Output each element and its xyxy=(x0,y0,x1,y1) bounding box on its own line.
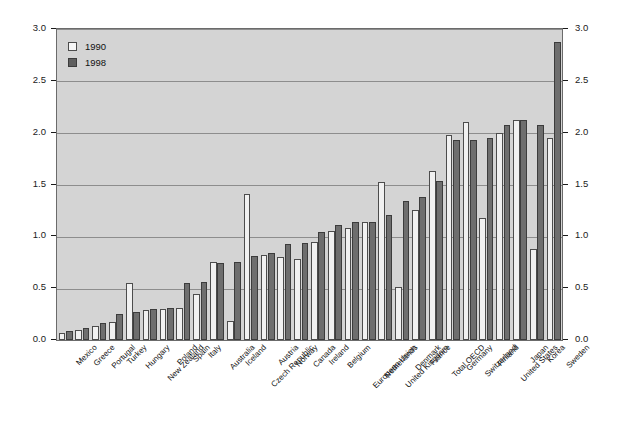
bar-1998 xyxy=(201,282,208,340)
chart-legend: 1990 1998 xyxy=(68,40,106,72)
bar-group xyxy=(495,29,512,340)
x-axis-labels: MexicoGreecePortugalTurkeyHungaryNew Zea… xyxy=(57,343,562,427)
y-tick-mark xyxy=(563,132,568,133)
bar-1998 xyxy=(285,244,292,340)
bar-1990 xyxy=(59,333,66,340)
bar-group xyxy=(141,29,158,340)
bar-group xyxy=(360,29,377,340)
bar-1990 xyxy=(143,310,150,340)
bar-group xyxy=(124,29,141,340)
bar-group xyxy=(343,29,360,340)
y-tick-label: 0.0 xyxy=(16,334,46,344)
y-tick-label: 2.5 xyxy=(16,75,46,85)
bar-1990 xyxy=(345,228,352,340)
bar-1998 xyxy=(217,263,224,340)
bar-1998 xyxy=(419,197,426,340)
legend-label-1998: 1998 xyxy=(85,58,106,67)
bar-1990 xyxy=(496,133,503,340)
bar-group xyxy=(57,29,74,340)
y-tick-mark xyxy=(563,184,568,185)
bar-1990 xyxy=(294,259,301,340)
y-tick-label: 1.0 xyxy=(16,230,46,240)
y-tick-mark xyxy=(563,28,568,29)
y-tick-mark xyxy=(51,339,56,340)
bar-group xyxy=(512,29,529,340)
y-tick-mark xyxy=(51,28,56,29)
bar-1990 xyxy=(513,120,520,340)
bar-1990 xyxy=(311,242,318,340)
bar-group xyxy=(411,29,428,340)
bar-1998 xyxy=(318,232,325,340)
bar-1990 xyxy=(109,322,116,340)
chart-container: 0.00.51.01.52.02.53.0 0.00.51.01.52.02.5… xyxy=(0,0,629,427)
bar-1990 xyxy=(479,218,486,340)
y-tick-label: 0.0 xyxy=(575,334,605,344)
y-tick-mark xyxy=(51,132,56,133)
bar-group xyxy=(326,29,343,340)
bar-group xyxy=(209,29,226,340)
y-tick-label: 1.5 xyxy=(16,179,46,189)
bar-group xyxy=(461,29,478,340)
bar-1990 xyxy=(328,231,335,340)
bar-group xyxy=(91,29,108,340)
bar-1998 xyxy=(234,262,241,340)
bar-1990 xyxy=(210,262,217,340)
y-tick-label: 2.0 xyxy=(575,127,605,137)
legend-swatch-1998 xyxy=(68,58,77,67)
bar-1998 xyxy=(133,312,140,340)
bar-1998 xyxy=(66,331,73,340)
bar-1990 xyxy=(126,283,133,340)
y-tick-label: 2.0 xyxy=(16,127,46,137)
x-axis-label: Sweden xyxy=(564,343,591,370)
bar-1990 xyxy=(75,330,82,340)
bar-1990 xyxy=(378,182,385,340)
bar-1990 xyxy=(530,249,537,340)
bar-group xyxy=(377,29,394,340)
bar-group xyxy=(108,29,125,340)
bar-group xyxy=(225,29,242,340)
bar-1998 xyxy=(184,283,191,340)
bar-1998 xyxy=(453,140,460,340)
y-tick-mark xyxy=(51,287,56,288)
bar-group xyxy=(192,29,209,340)
bar-group xyxy=(545,29,562,340)
y-tick-mark xyxy=(563,287,568,288)
bar-1990 xyxy=(244,194,251,340)
bar-1990 xyxy=(277,257,284,340)
bar-group xyxy=(444,29,461,340)
y-tick-mark xyxy=(563,339,568,340)
y-tick-mark xyxy=(51,235,56,236)
bar-group xyxy=(310,29,327,340)
bar-1998 xyxy=(554,42,561,340)
bar-1998 xyxy=(436,181,443,340)
legend-item-1998: 1998 xyxy=(68,56,106,69)
y-tick-label: 3.0 xyxy=(575,23,605,33)
bar-1990 xyxy=(261,255,268,340)
bar-1990 xyxy=(429,171,436,340)
y-tick-mark xyxy=(51,184,56,185)
bar-1998 xyxy=(150,309,157,340)
y-tick-label: 0.5 xyxy=(575,282,605,292)
y-tick-mark xyxy=(563,235,568,236)
bar-1998 xyxy=(487,138,494,340)
bar-1998 xyxy=(167,308,174,340)
bar-1998 xyxy=(386,215,393,340)
bar-1990 xyxy=(395,287,402,340)
bar-group xyxy=(427,29,444,340)
y-tick-label: 2.5 xyxy=(575,75,605,85)
bar-group xyxy=(242,29,259,340)
bar-1990 xyxy=(362,222,369,340)
bar-1990 xyxy=(463,122,470,340)
bar-group xyxy=(528,29,545,340)
legend-item-1990: 1990 xyxy=(68,40,106,53)
bar-1998 xyxy=(470,140,477,340)
y-tick-mark xyxy=(51,80,56,81)
y-tick-label: 1.5 xyxy=(575,179,605,189)
bar-1998 xyxy=(251,256,258,340)
bar-1998 xyxy=(302,243,309,340)
bar-group xyxy=(293,29,310,340)
y-tick-label: 0.5 xyxy=(16,282,46,292)
bar-1998 xyxy=(83,328,90,340)
bar-1990 xyxy=(547,138,554,340)
bar-1998 xyxy=(335,225,342,340)
